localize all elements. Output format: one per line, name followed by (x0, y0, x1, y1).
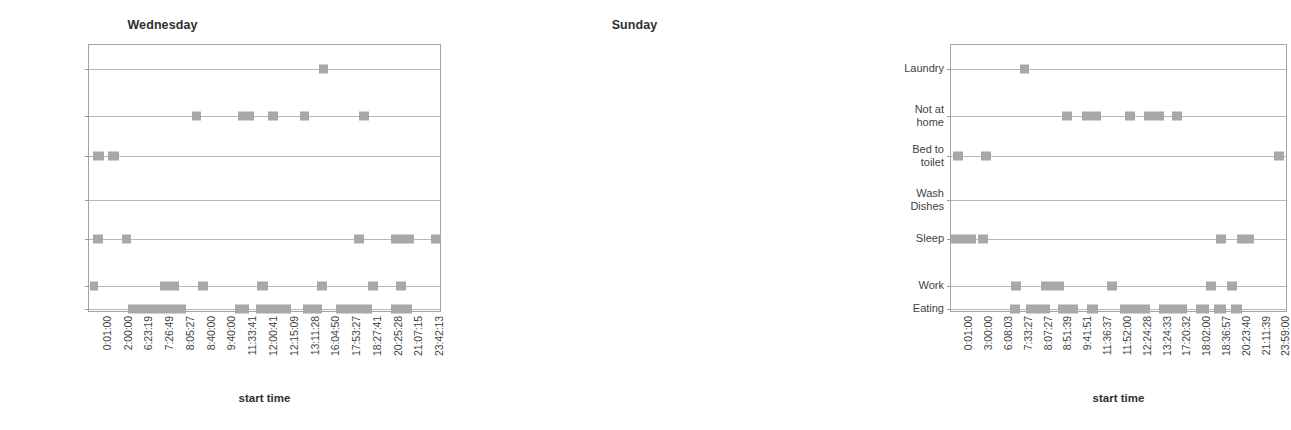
x-axis-tick-label: 6:08:03 (1002, 316, 1014, 350)
x-axis-tick-label: 11:36:37 (1101, 316, 1113, 355)
x-axis-labels-sunday: 0:01:003:00:006:08:037:33:278:07:278:51:… (950, 316, 1287, 386)
gridline (89, 116, 440, 117)
y-axis-tick (947, 156, 951, 157)
data-marker (238, 112, 254, 121)
gridline (951, 156, 1286, 157)
x-axis-tick-label: 8:51:39 (1061, 316, 1073, 350)
x-axis-tick-label: 11:52:00 (1121, 316, 1133, 355)
x-axis-tick-label: 12:00:41 (267, 316, 279, 356)
y-axis-tick (947, 116, 951, 117)
data-marker (198, 282, 208, 291)
x-axis-tick-label: 8:05:27 (184, 316, 196, 350)
data-marker (256, 305, 291, 314)
gridline (89, 69, 440, 70)
data-marker (953, 152, 963, 161)
x-axis-tick-label: 7:26:49 (163, 316, 175, 350)
y-axis-category-label: Not at home (884, 103, 944, 128)
gridline (951, 116, 1286, 117)
y-axis-tick (85, 156, 89, 157)
x-axis-title-wednesday: start time (88, 392, 441, 404)
x-axis-tick-label: 3:00:00 (982, 316, 994, 350)
data-marker (1107, 282, 1117, 291)
data-marker (160, 282, 178, 291)
data-marker (1041, 282, 1064, 291)
chart-panel-sunday: Sunday LaundryNot at homeBed to toiletWa… (444, 0, 889, 430)
gridline (89, 200, 440, 201)
gridline (951, 239, 1286, 240)
x-axis-tick-label: 6:23:19 (142, 316, 154, 350)
gridline (951, 69, 1286, 70)
data-marker (235, 305, 249, 314)
y-axis-category-label: Bed to toilet (884, 143, 944, 168)
y-axis-tick (85, 69, 89, 70)
x-axis-tick-label: 0:01:00 (962, 316, 974, 350)
x-axis-tick-label: 17:53:27 (350, 316, 362, 356)
data-marker (1231, 305, 1242, 314)
data-marker (978, 235, 988, 244)
data-marker (1011, 282, 1021, 291)
x-axis-tick-label: 21:07:15 (412, 316, 424, 356)
x-axis-tick-label: 18:36:57 (1220, 316, 1232, 356)
chart-panel-wednesday: Wednesday LaundryNot at homeBed to Toile… (0, 0, 445, 430)
data-marker (303, 305, 322, 314)
data-marker (1172, 112, 1182, 121)
y-axis-category-label: Laundry (884, 62, 944, 75)
data-marker (391, 235, 414, 244)
data-marker (1237, 235, 1254, 244)
x-axis-tick-label: 12:24:28 (1141, 316, 1153, 356)
x-axis-tick-label: 18:27:41 (371, 316, 383, 356)
y-axis-labels-sunday: LaundryNot at homeBed to toiletWash Dish… (884, 44, 944, 312)
y-axis-tick (85, 116, 89, 117)
x-axis-tick-label: 21:11:39 (1260, 316, 1272, 355)
x-axis-tick-label: 9:40:00 (225, 316, 237, 350)
data-marker (359, 112, 369, 121)
gridline (951, 200, 1286, 201)
data-marker (1082, 112, 1101, 121)
data-marker (354, 235, 364, 244)
y-axis-category-label: Work (884, 279, 944, 292)
data-marker (1206, 282, 1216, 291)
x-axis-tick-label: 16:04:50 (329, 316, 341, 356)
data-marker (1125, 112, 1135, 121)
data-marker (128, 305, 186, 314)
data-marker (257, 282, 268, 291)
x-axis-tick-label: 2:00:00 (122, 316, 134, 350)
data-marker (93, 235, 103, 244)
data-marker (317, 282, 327, 291)
data-marker (300, 112, 310, 121)
x-axis-tick-label: 20:25:28 (392, 316, 404, 356)
plot-area-sunday (950, 44, 1287, 312)
x-axis-title-sunday: start time (950, 392, 1287, 404)
data-marker (192, 112, 201, 121)
data-marker (951, 235, 976, 244)
gridline (89, 156, 440, 157)
x-axis-tick-label: 13:24:33 (1161, 316, 1173, 356)
data-marker (981, 152, 991, 161)
x-axis-tick-label: 12:15:09 (288, 316, 300, 356)
data-marker (122, 235, 132, 244)
y-axis-tick (85, 239, 89, 240)
x-axis-tick-label: 8:07:27 (1042, 316, 1054, 350)
data-marker (1214, 305, 1226, 314)
y-axis-tick (85, 286, 89, 287)
data-marker (1058, 305, 1078, 314)
data-marker (396, 282, 406, 291)
y-axis-category-label: Sleep (884, 232, 944, 245)
y-axis-category-label: Eating (884, 302, 944, 315)
y-axis-tick (85, 309, 89, 310)
data-marker (1010, 305, 1021, 314)
x-axis-tick-label: 11:33:41 (246, 316, 258, 355)
data-marker (1087, 305, 1098, 314)
data-marker (336, 305, 371, 314)
data-marker (368, 282, 378, 291)
x-axis-tick-label: 0:01:00 (101, 316, 113, 350)
gridline (89, 239, 440, 240)
data-marker (1216, 235, 1226, 244)
data-marker (391, 305, 412, 314)
x-axis-tick-label: 8:40:00 (205, 316, 217, 350)
data-marker (319, 65, 328, 74)
x-axis-tick-label: 20:23:40 (1240, 316, 1252, 356)
y-axis-tick (947, 200, 951, 201)
data-marker (1062, 112, 1072, 121)
